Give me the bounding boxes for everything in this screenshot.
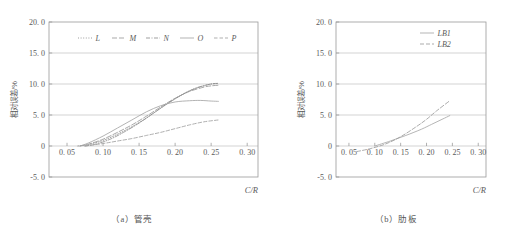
chart-panel-b: 0. 050. 100. 150. 200. 250. 30-5. 005. 0… <box>264 0 528 232</box>
panel-a-caption: （a）管壳 <box>0 212 264 224</box>
series-curve-N <box>85 83 218 146</box>
series-curve-L <box>78 83 219 146</box>
y-axis-title: 相对误差/% <box>9 81 19 118</box>
y-tick-label: 15. 0 <box>29 49 45 58</box>
y-tick-label: 15. 0 <box>316 49 332 58</box>
x-tick-label: 0. 30 <box>239 148 255 157</box>
y-tick-label: 5. 0 <box>33 111 45 120</box>
x-tick-label: 0. 10 <box>367 148 383 157</box>
series-curve-P <box>85 120 218 146</box>
chart-panel-a: 0. 050. 100. 150. 200. 250. 30-5. 005. 0… <box>0 0 264 232</box>
x-tick-label: 0. 15 <box>393 148 409 157</box>
x-tick-label: 0. 05 <box>341 148 357 157</box>
x-tick-label: 0. 25 <box>203 148 219 157</box>
y-tick-label: 0 <box>41 142 45 151</box>
y-tick-label: 5. 0 <box>320 111 332 120</box>
legend-label-M: M <box>129 34 138 43</box>
x-tick-label: 0. 10 <box>95 148 111 157</box>
x-tick-label: 0. 05 <box>59 148 75 157</box>
y-axis-title: 相对误差/% <box>296 81 306 118</box>
y-tick-label: 0 <box>328 142 332 151</box>
chart-a-svg: 0. 050. 100. 150. 200. 250. 30-5. 005. 0… <box>0 0 264 195</box>
y-tick-label: -5. 0 <box>317 173 332 182</box>
y-tick-label: 20. 0 <box>29 18 45 27</box>
legend-label-LB1: LB1 <box>437 29 451 38</box>
y-tick-label: -5. 0 <box>30 173 45 182</box>
x-tick-label: 0. 25 <box>444 148 460 157</box>
series-curve-LB2 <box>357 101 450 152</box>
plot-frame <box>336 22 486 177</box>
figure-container: 0. 050. 100. 150. 200. 250. 30-5. 005. 0… <box>0 0 528 232</box>
x-tick-label: 0. 20 <box>167 148 183 157</box>
plot-frame <box>49 22 258 177</box>
x-tick-label: 0. 20 <box>419 148 435 157</box>
chart-b-svg: 0. 050. 100. 150. 200. 250. 30-5. 005. 0… <box>264 0 528 195</box>
legend-label-LB2: LB2 <box>437 40 451 49</box>
x-tick-label: 0. 30 <box>470 148 486 157</box>
legend-label-P: P <box>231 34 237 43</box>
x-axis-title: C/R <box>245 185 259 195</box>
panel-b-caption: （b）肋板 <box>264 212 528 224</box>
y-tick-label: 10. 0 <box>29 80 45 89</box>
legend-label-O: O <box>198 34 204 43</box>
y-tick-label: 20. 0 <box>316 18 332 27</box>
series-curve-LB1 <box>375 116 450 146</box>
series-curve-O <box>80 100 218 146</box>
y-tick-label: 10. 0 <box>316 80 332 89</box>
x-axis-title: C/R <box>473 185 487 195</box>
x-tick-label: 0. 15 <box>131 148 147 157</box>
legend-label-L: L <box>95 34 101 43</box>
legend-label-N: N <box>163 34 170 43</box>
